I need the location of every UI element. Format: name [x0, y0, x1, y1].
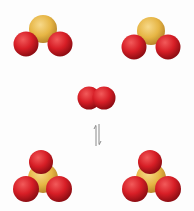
oxygen-atom [122, 176, 148, 202]
oxygen-atom [122, 35, 147, 60]
equilibrium-arrow-icon [94, 124, 101, 146]
oxygen-atom [155, 176, 181, 202]
oxygen-atom [156, 35, 181, 60]
so3-molecule-right [122, 150, 181, 202]
so3-molecule-left [13, 150, 72, 202]
o2-molecule [78, 87, 116, 110]
reaction-diagram [0, 0, 194, 211]
oxygen-atom [29, 150, 53, 174]
so2-molecule-left [14, 15, 73, 57]
oxygen-atom [138, 150, 162, 174]
oxygen-atom [13, 176, 39, 202]
oxygen-atom [93, 87, 116, 110]
oxygen-atom [46, 176, 72, 202]
oxygen-atom [48, 32, 73, 57]
oxygen-atom [14, 32, 39, 57]
so2-molecule-right [122, 17, 181, 60]
